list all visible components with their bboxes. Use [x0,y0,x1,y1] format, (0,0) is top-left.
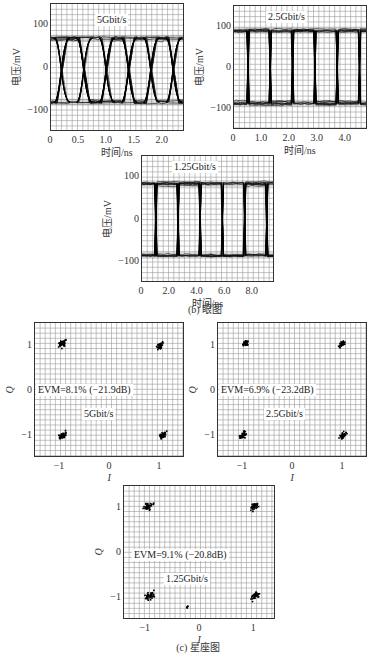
x-tick-label: 0 [231,133,236,143]
y-tick-label: 0 [43,62,48,72]
y-tick-label: −1 [204,430,215,440]
y-axis-label: 电压/mV [12,48,22,86]
y-tick-label: 0 [226,62,231,72]
eye-plot-area-2_5g: 2.5Gbit/s [233,5,367,129]
x-tick-label: 0 [48,135,53,145]
eye-rate-label: 1.25Gbit/s [172,161,218,173]
eye-rate-label: 5Gbit/s [95,14,128,26]
eye-plot-svg [142,156,274,282]
y-tick-label: 0 [116,547,121,557]
x-tick-label: 8.0 [246,286,259,296]
y-tick-label: 100 [216,21,231,31]
y-tick-label: 1 [210,340,215,350]
y-tick-label: 100 [33,19,48,29]
y-tick-label: 0 [134,214,139,224]
constellation-rate-label: 1.25Gbit/s [164,573,210,585]
constellation-rate-label: 2.5Gbit/s [264,408,305,420]
x-tick-label: 2.0 [283,133,296,143]
eye-diagram-1_25g: 1.25Gbit/s 02.04.06.08.01000−100时间/ns电压/… [95,150,285,310]
x-tick-label: 1.0 [255,133,268,143]
y-tick-label: 0 [27,385,32,395]
constellation-rate-label: 5Gbit/s [82,408,115,420]
y-tick-label: −1 [21,430,32,440]
evm-label: EVM=9.1% (−20.8dB) [132,549,229,561]
eye-caption: (b) 眼图 [188,305,222,315]
x-tick-label: 1 [157,461,162,471]
y-tick-label: −100 [118,256,139,266]
x-tick-label: −1 [54,461,65,471]
constellation-5g: EVM=8.1% (−21.9dB) 5Gbit/s −10110−1IQ [0,315,190,485]
y-axis-label: 电压/mV [195,48,205,86]
y-tick-label: 1 [116,502,121,512]
y-axis-label: 电压/mV [103,200,113,238]
constellation-caption: (c) 星座图 [176,643,220,653]
x-tick-label: 2.0 [162,286,175,296]
y-tick-label: 1 [27,340,32,350]
x-tick-label: 1.5 [128,135,141,145]
x-tick-label: 0 [197,623,202,633]
eye-diagram-5g: 5Gbit/s 00.51.01.52.01000−100时间/ns电压/mV [0,0,190,155]
constellation-plot-area-5g: EVM=8.1% (−21.9dB) 5Gbit/s [34,322,184,457]
eye-plot-area-5g: 5Gbit/s [50,3,184,131]
eye-rate-label: 2.5Gbit/s [266,11,307,23]
x-tick-label: 0.5 [72,135,85,145]
x-tick-label: 0 [139,286,144,296]
y-axis-label: Q [187,386,197,393]
x-tick-label: −1 [139,623,150,633]
x-tick-label: 6.0 [218,286,231,296]
x-axis-label: 时间/ns [284,146,316,156]
y-axis-label: Q [4,386,14,393]
y-axis-label: Q [93,548,103,555]
constellation-1_25g: EVM=9.1% (−20.8dB) 1.25Gbit/s −10110−1IQ [90,478,280,659]
y-tick-label: −100 [27,105,48,115]
eye-plot-area-1_25g: 1.25Gbit/s [141,155,274,282]
x-tick-label: 1.0 [100,135,113,145]
x-tick-label: 1 [251,623,256,633]
x-tick-label: 2.0 [155,135,168,145]
y-tick-label: 0 [210,385,215,395]
x-tick-label: 0 [290,461,295,471]
constellation-2_5g: EVM=6.9% (−23.2dB) 2.5Gbit/s −10110−1IQ [185,315,371,485]
eye-plot-svg [234,6,367,129]
y-tick-label: 100 [124,171,139,181]
x-tick-label: −1 [237,461,248,471]
x-tick-label: 4.0 [338,133,351,143]
y-tick-label: −1 [110,592,121,602]
constellation-plot-area-2_5g: EVM=6.9% (−23.2dB) 2.5Gbit/s [217,322,367,457]
constellation-plot-area-1_25g: EVM=9.1% (−20.8dB) 1.25Gbit/s [123,485,275,619]
x-tick-label: 3.0 [311,133,324,143]
y-tick-label: −100 [210,103,231,113]
x-tick-label: 0 [107,461,112,471]
x-tick-label: 1 [340,461,345,471]
eye-diagram-2_5g: 2.5Gbit/s 01.02.03.04.01000−100时间/ns电压/m… [185,0,371,155]
x-axis-label: I [291,473,294,483]
x-tick-label: 4.0 [190,286,203,296]
evm-label: EVM=8.1% (−21.9dB) [36,384,133,396]
evm-label: EVM=6.9% (−23.2dB) [219,384,316,396]
